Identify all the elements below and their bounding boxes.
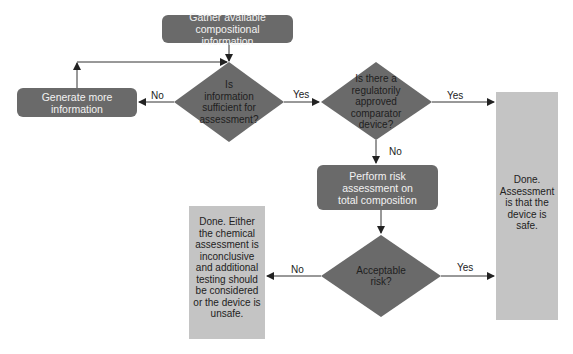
process-risk-label: Perform risk assessment on total composi… <box>333 170 422 206</box>
edge-label-comparator-no: No <box>389 146 402 157</box>
decision-sufficient: Is information sufficient for assessment… <box>199 70 259 134</box>
edge-label-acceptable-yes: Yes <box>457 262 473 273</box>
decision-comparator-label: Is there a regulatorily approved compara… <box>344 73 408 131</box>
edge-label-acceptable-no: No <box>291 264 304 275</box>
terminal-done-unsafe: Done. Either the chemical assessment is … <box>189 206 265 339</box>
decision-comparator: Is there a regulatorily approved compara… <box>344 70 408 134</box>
decision-acceptable: Acceptable risk? <box>346 262 416 290</box>
process-gather-label: Gather available compositional informati… <box>168 11 287 47</box>
decision-sufficient-label: Is information sufficient for assessment… <box>199 79 259 125</box>
terminal-done-safe: Done. Assessment is that the device is s… <box>496 92 558 320</box>
terminal-done-safe-label: Done. Assessment is that the device is s… <box>500 174 554 232</box>
flowchart-connectors <box>0 0 573 354</box>
decision-acceptable-label: Acceptable risk? <box>346 265 416 288</box>
edge-label-comparator-yes: Yes <box>447 90 463 101</box>
process-generate-information: Generate more information <box>17 88 137 117</box>
edge-label-sufficient-yes: Yes <box>293 89 309 100</box>
process-risk-assessment: Perform risk assessment on total composi… <box>317 165 438 210</box>
process-gather-information: Gather available compositional informati… <box>162 15 293 43</box>
process-generate-label: Generate more information <box>39 91 115 115</box>
edge-label-sufficient-no: No <box>151 90 164 101</box>
terminal-done-unsafe-label: Done. Either the chemical assessment is … <box>193 216 261 320</box>
